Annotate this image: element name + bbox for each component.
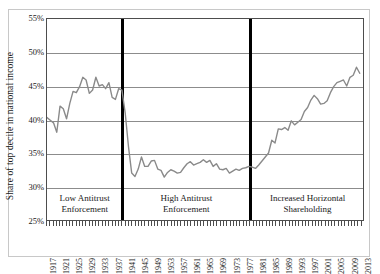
x-tick [341,221,342,226]
x-tick [213,221,214,226]
x-tick [275,221,276,226]
period-annotation: Low AntitrustEnforcement [47,193,122,215]
x-tick-label: 1973 [234,258,242,274]
x-tick [197,221,198,226]
x-tick [279,221,280,226]
y-tick-label: 45% [28,81,44,90]
x-tick-label: 1929 [89,258,97,274]
period-annotation: Increased HorizontalShareholding [250,193,364,215]
x-tick [259,221,260,226]
x-tick [321,221,322,226]
x-tick-label: 1953 [168,258,176,274]
x-tick [190,221,191,226]
x-tick-label: 1977 [247,258,255,274]
x-tick [118,221,119,226]
x-tick [187,221,188,226]
y-axis-title: Share of top decile in national income [2,22,18,230]
x-tick [59,221,60,226]
x-tick [66,221,67,226]
x-tick-label: 1969 [220,258,228,274]
x-tick [76,221,77,226]
x-tick [269,221,270,226]
x-tick [53,221,54,226]
plot-area: Low AntitrustEnforcementHigh AntitrustEn… [46,18,364,221]
x-tick-label: 1993 [299,258,307,274]
income-share-line-series [47,19,363,220]
x-tick-label: 1925 [76,258,84,274]
x-tick [184,221,185,226]
x-tick [344,221,345,226]
x-tick [151,221,152,226]
x-tick [289,221,290,226]
x-axis-ticks [46,221,364,227]
x-tick [171,221,172,226]
annotation-line-2: Enforcement [122,204,250,215]
x-tick-label: 1941 [129,258,137,274]
x-tick [95,221,96,226]
x-tick [361,221,362,226]
x-tick-label: 1985 [273,258,281,274]
x-tick [121,221,122,226]
x-tick [302,221,303,226]
x-tick [223,221,224,226]
annotation-line-2: Shareholding [250,204,364,215]
x-tick [272,221,273,226]
x-tick [72,221,73,226]
x-tick [354,221,355,226]
x-tick [246,221,247,226]
x-tick [148,221,149,226]
x-tick [167,221,168,226]
x-tick [312,221,313,226]
x-tick-label: 1965 [207,258,215,274]
x-tick [131,221,132,226]
x-tick [348,221,349,226]
x-tick-label: 1933 [102,258,110,274]
x-tick [285,221,286,226]
x-tick [308,221,309,226]
x-tick [200,221,201,226]
x-tick-label: 2005 [338,258,346,274]
x-tick [92,221,93,226]
x-tick [305,221,306,226]
y-tick-label: 25% [28,217,44,226]
annotation-line-1: Increased Horizontal [250,193,364,204]
x-tick-label: 2001 [325,258,333,274]
x-tick [239,221,240,226]
x-tick [220,221,221,226]
x-tick [56,221,57,226]
x-tick [262,221,263,226]
x-tick [295,221,296,226]
x-tick [108,221,109,226]
x-tick [282,221,283,226]
x-tick [315,221,316,226]
annotation-line-1: High Antitrust [122,193,250,204]
x-tick-label: 1997 [312,258,320,274]
x-tick-label: 1961 [194,258,202,274]
x-tick [325,221,326,226]
x-tick [331,221,332,226]
x-tick [98,221,99,226]
annotation-line-1: Low Antitrust [47,193,122,204]
x-tick-label: 1921 [63,258,71,274]
x-tick [138,221,139,226]
y-tick-label: 55% [28,14,44,23]
x-tick [298,221,299,226]
x-tick-label: 1957 [181,258,189,274]
x-tick-label: 1937 [116,258,124,274]
x-tick [351,221,352,226]
x-tick [79,221,80,226]
x-tick [292,221,293,226]
x-tick [236,221,237,226]
x-tick [141,221,142,226]
x-tick [46,221,47,226]
y-tick-label: 40% [28,115,44,124]
x-tick [357,221,358,226]
y-tick-label: 50% [28,48,44,57]
x-tick-label: 1989 [286,258,294,274]
x-tick [256,221,257,226]
x-tick [203,221,204,226]
x-tick-label: 1981 [260,258,268,274]
x-tick [226,221,227,226]
x-tick [105,221,106,226]
